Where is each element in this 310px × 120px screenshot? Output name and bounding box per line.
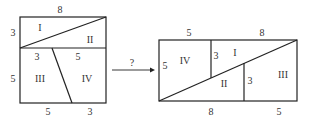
piece-IV-left: IV [82, 73, 93, 84]
right-inner-right-label: 3 [248, 75, 253, 86]
piece-I-left: I [38, 22, 41, 33]
right-top-right-label: 8 [260, 27, 265, 38]
transform-arrow: ? [112, 57, 155, 73]
piece-I-right: I [233, 47, 236, 58]
arrow-question-label: ? [130, 57, 135, 68]
left-bottom-right-label: 3 [88, 106, 93, 117]
dissection-diagram: 8 3 5 3 5 5 3 I II III IV ? 5 8 5 3 3 8 … [0, 0, 310, 120]
left-side-top-label: 3 [11, 27, 16, 38]
right-bottom-right-label: 5 [277, 106, 282, 117]
left-side-bottom-label: 5 [11, 73, 16, 84]
piece-II-right: II [221, 78, 228, 89]
left-square: 8 3 5 3 5 5 3 I II III IV [11, 4, 107, 117]
piece-II-left: II [87, 34, 94, 45]
arrow-head-icon [150, 68, 155, 73]
left-bottom-left-label: 5 [46, 106, 51, 117]
right-diagonal [159, 40, 297, 101]
right-top-left-label: 5 [187, 27, 192, 38]
piece-IV-right: IV [180, 55, 191, 66]
left-mid-left-label: 3 [35, 51, 40, 62]
left-square-outline [20, 17, 106, 103]
right-inner-left-label: 3 [214, 50, 219, 61]
left-mid-right-label: 5 [76, 51, 81, 62]
piece-III-right: III [278, 69, 288, 80]
left-top-label: 8 [58, 4, 63, 15]
right-rectangle: 5 8 5 3 3 8 5 IV I II III [159, 27, 297, 117]
left-slanted-divider [52, 48, 72, 103]
piece-III-left: III [35, 73, 45, 84]
right-bottom-left-label: 8 [209, 106, 214, 117]
right-left-label: 5 [163, 60, 168, 71]
